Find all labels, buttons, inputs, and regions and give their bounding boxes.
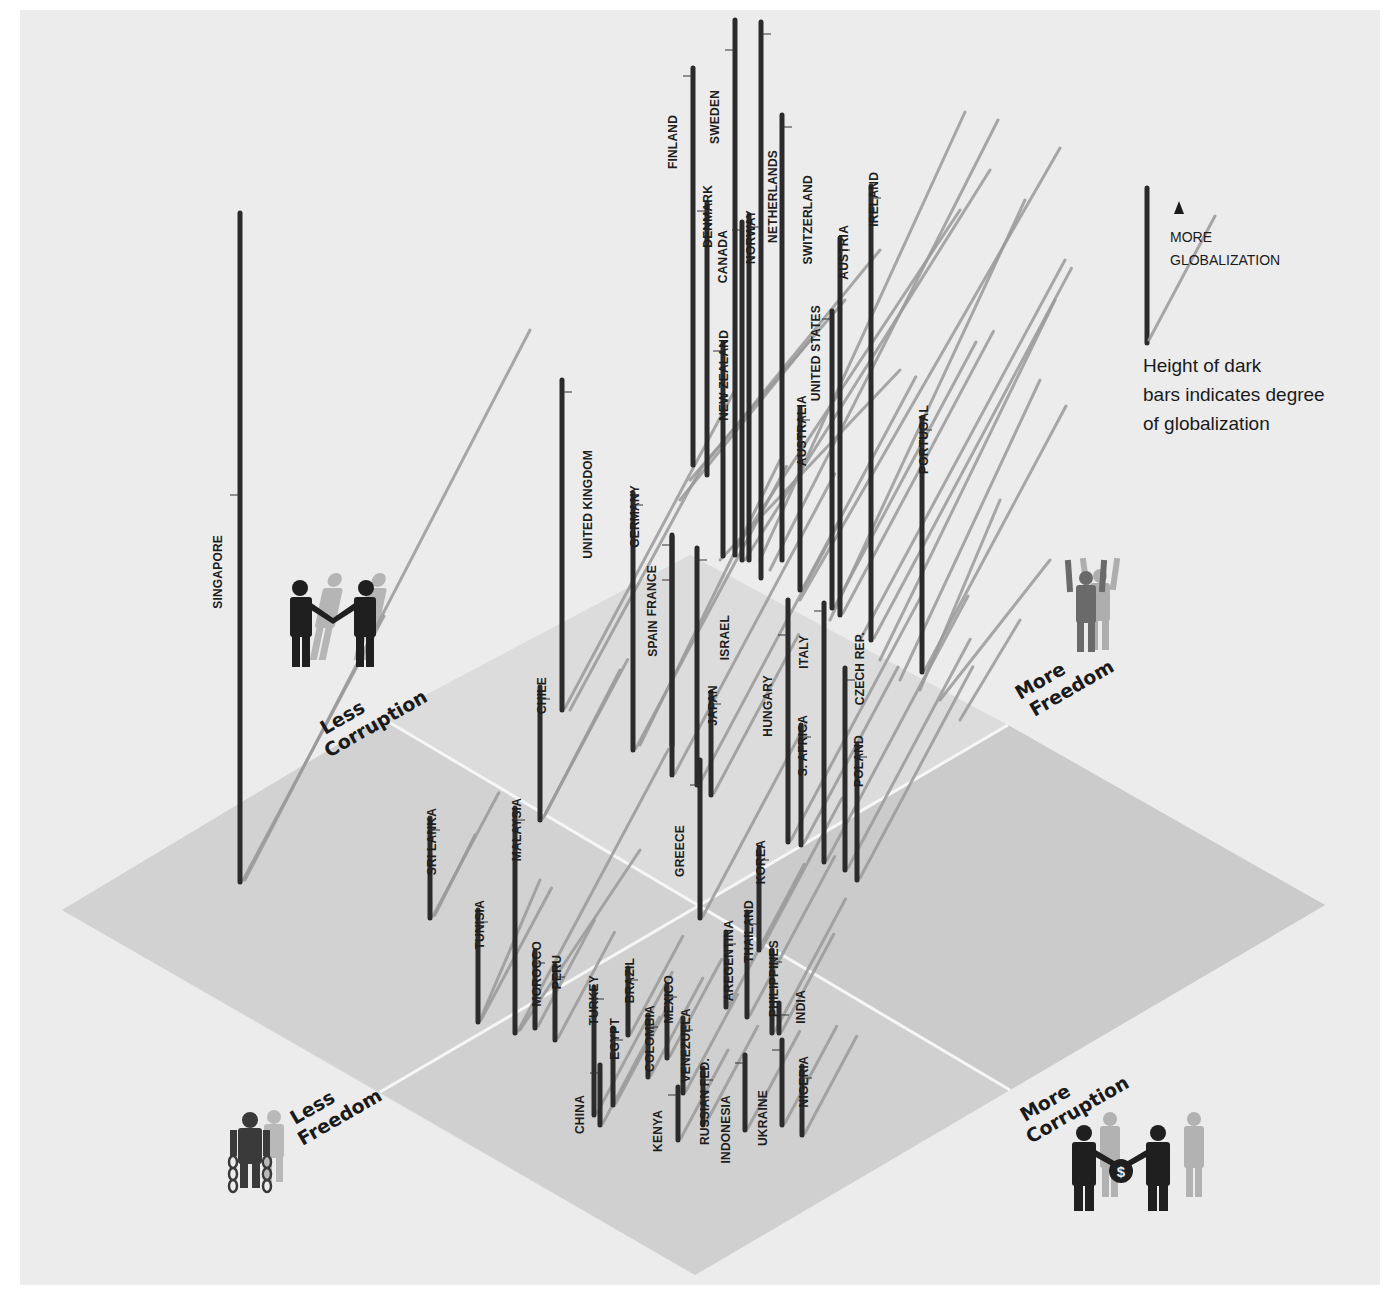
legend-note-1: Height of dark bbox=[1143, 355, 1262, 376]
country-label: CHILE bbox=[535, 677, 549, 714]
country-label: INDIA bbox=[794, 990, 808, 1024]
country-label: EGYPT bbox=[608, 1018, 622, 1060]
country-label: HUNGARY bbox=[761, 675, 775, 737]
country-label: AUSTRALIA bbox=[795, 395, 809, 466]
legend-arrow-label-1: MORE bbox=[1170, 229, 1212, 245]
dollar-sign: $ bbox=[1117, 1163, 1126, 1180]
legend-arrow-label-2: GLOBALIZATION bbox=[1170, 252, 1280, 268]
bribe-handshake-icon: $ bbox=[1072, 1112, 1204, 1211]
country-label: MEXICO bbox=[662, 975, 676, 1024]
country-label: NEW ZEALAND bbox=[717, 330, 731, 421]
country-label: VENEZUELA bbox=[679, 1008, 693, 1083]
base-plane bbox=[62, 555, 1325, 1275]
country-label: UNITED STATES bbox=[809, 305, 823, 401]
country-label: GREECE bbox=[673, 825, 687, 877]
globalization-3d-chart: SINGAPOREFINLANDSWEDENNETHERLANDSSWITZER… bbox=[20, 10, 1380, 1285]
up-arrow-icon bbox=[1174, 201, 1184, 214]
country-label: NORWAY bbox=[744, 210, 758, 264]
quadrant-label-more-freedom: More Freedom bbox=[1011, 636, 1117, 723]
country-label: FINLAND bbox=[666, 115, 680, 169]
country-label: IRELAND bbox=[867, 172, 881, 227]
country-label: NIGERIA bbox=[797, 1056, 811, 1108]
country-label: CANADA bbox=[716, 230, 730, 283]
country-label: SINGAPORE bbox=[211, 535, 225, 609]
country-label: DENMARK bbox=[701, 185, 715, 248]
shadow-line bbox=[880, 300, 1055, 660]
country-label: POLAND bbox=[852, 735, 866, 787]
country-label: SWEDEN bbox=[708, 90, 722, 144]
country-label: S. AFRICA bbox=[796, 715, 810, 776]
country-label: COLOMBIA bbox=[643, 1005, 657, 1072]
country-label: PORTUGAL bbox=[917, 405, 931, 474]
country-label: TURKEY bbox=[587, 975, 601, 1026]
chained-person-icon bbox=[229, 1110, 284, 1192]
legend-note-2: bars indicates degree bbox=[1143, 384, 1325, 405]
country-label: TUNISIA bbox=[473, 900, 487, 950]
country-label: CZECH REP. bbox=[853, 632, 867, 705]
country-label: ISRAEL bbox=[718, 615, 732, 660]
country-label: PERU bbox=[550, 955, 564, 989]
country-label: FRANCE bbox=[645, 565, 659, 616]
country-label: SRI LANKA bbox=[425, 808, 439, 875]
legend-note-3: of globalization bbox=[1143, 413, 1270, 434]
country-label: INDONESIA bbox=[719, 1095, 733, 1164]
country-label: RUSSIAN FED. bbox=[698, 1058, 712, 1145]
country-label: UKRAINE bbox=[756, 1090, 770, 1146]
shadow-line bbox=[680, 340, 810, 500]
country-label: BRAZIL bbox=[623, 958, 637, 1003]
raised-arms-person-icon bbox=[1065, 558, 1120, 652]
country-label: THAILAND bbox=[742, 900, 756, 963]
country-label: KENYA bbox=[651, 1110, 665, 1152]
country-label: NETHERLANDS bbox=[766, 150, 780, 243]
country-label: AREGENTINA bbox=[722, 920, 736, 1001]
handshake-icon bbox=[290, 573, 390, 667]
country-label: UNITED KINGDOM bbox=[581, 450, 595, 559]
country-label: GERMANY bbox=[628, 485, 642, 548]
country-label: CHINA bbox=[573, 1095, 587, 1134]
country-label: KOREA bbox=[754, 840, 768, 884]
country-label: JAPAN bbox=[706, 685, 720, 726]
legend: MORE GLOBALIZATION Height of dark bars i… bbox=[1143, 188, 1325, 434]
country-label: SWITZERLAND bbox=[801, 175, 815, 265]
country-label: PHILIPPINES bbox=[767, 940, 781, 1017]
country-label: SPAIN bbox=[646, 620, 660, 657]
country-label: MALAYSIA bbox=[510, 798, 524, 861]
country-label: AUSTRIA bbox=[837, 225, 851, 280]
country-label: ITALY bbox=[797, 635, 811, 669]
infographic: SINGAPOREFINLANDSWEDENNETHERLANDSSWITZER… bbox=[20, 10, 1380, 1285]
country-label: MOROCCO bbox=[530, 941, 544, 1006]
